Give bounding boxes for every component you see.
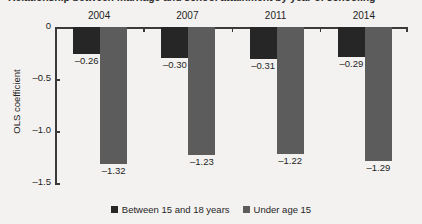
bar (100, 27, 127, 164)
bar-value-label: –1.32 (91, 165, 136, 176)
y-axis-tick: –1.0 (55, 131, 60, 133)
x-axis-category-label: 2007 (143, 10, 231, 21)
y-axis-tick-mark (55, 79, 60, 81)
bar-value-label: –1.23 (179, 156, 224, 167)
y-axis-tick-mark (55, 27, 60, 29)
bar (161, 27, 188, 58)
y-axis-tick-label: –1.0 (33, 124, 52, 135)
y-axis-tick-label: –1.5 (33, 176, 52, 187)
legend-swatch-icon (111, 206, 118, 213)
chart-title: Relationship between marriage and school… (8, 0, 414, 5)
y-axis-line (55, 27, 57, 183)
bar (73, 27, 100, 54)
y-axis-tick-label: 0 (46, 20, 51, 31)
chart-legend: Between 15 and 18 years Under age 15 (0, 204, 422, 215)
y-axis-tick-mark (55, 131, 60, 133)
y-axis-title: OLS coefficient (11, 37, 22, 167)
x-axis-end-tick (406, 27, 408, 32)
x-axis-group-separator-tick (143, 27, 144, 32)
legend-label: Under age 15 (254, 204, 312, 215)
y-axis-tick: 0 (55, 27, 60, 29)
x-axis-category-label: 2011 (232, 10, 320, 21)
x-axis-group-separator-tick (320, 27, 321, 32)
x-axis-category-label: 2014 (320, 10, 408, 21)
y-axis-tick: –1.5 (55, 183, 60, 185)
bar (338, 27, 365, 57)
legend-item-between-15-and-18-years: Between 15 and 18 years (111, 204, 230, 215)
legend-label: Between 15 and 18 years (122, 204, 230, 215)
bar (365, 27, 392, 161)
plot-area: 0–0.5–1.0–1.52004–0.26–1.322007–0.30–1.2… (55, 27, 408, 183)
legend-item-under-age-15: Under age 15 (243, 204, 312, 215)
bar (188, 27, 215, 155)
x-axis-category-label: 2004 (55, 10, 143, 21)
bar (250, 27, 277, 59)
y-axis-tick: –0.5 (55, 79, 60, 81)
y-axis-tick-label: –0.5 (33, 72, 52, 83)
bar-value-label: –1.22 (268, 155, 313, 166)
x-axis-group-separator-tick (232, 27, 233, 32)
bar-value-label: –1.29 (356, 162, 401, 173)
bar-chart: Relationship between marriage and school… (0, 0, 422, 224)
bar (277, 27, 304, 154)
y-axis-tick-mark (55, 183, 60, 185)
legend-swatch-icon (243, 206, 250, 213)
